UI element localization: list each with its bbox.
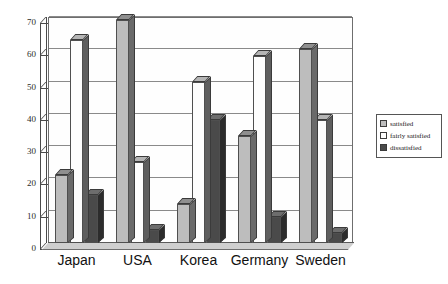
y-tick-label: 50: [6, 83, 36, 92]
y-tick-label: 40: [6, 115, 36, 124]
bar-side: [98, 189, 104, 243]
bar-group-japan: [55, 18, 100, 243]
bar-side: [312, 44, 318, 243]
legend-swatch-icon: [380, 132, 387, 139]
legend-item-fairly-satisfied[interactable]: fairly satisfied: [380, 130, 439, 141]
bar-group-germany: [238, 18, 283, 243]
legend-label: dissatisfied: [390, 144, 422, 152]
bar-face: [177, 204, 190, 243]
bar-korea-satisfied: [177, 204, 190, 243]
gridline: [49, 16, 352, 17]
bar-side: [68, 170, 74, 243]
y-tick-label: 60: [6, 50, 36, 59]
bar-face: [299, 49, 312, 243]
bar-side: [129, 15, 135, 243]
bar-side: [266, 50, 272, 243]
bar-side: [251, 131, 257, 243]
bar-group-sweden: [299, 18, 344, 243]
y-tick-label: 70: [6, 18, 36, 27]
bar-side: [220, 115, 226, 243]
legend-label: fairly satisfied: [390, 132, 430, 140]
bar-side: [83, 34, 89, 243]
bar-group-korea: [177, 18, 222, 243]
bar-side: [205, 76, 211, 243]
bar-group-usa: [116, 18, 161, 243]
legend-label: satisfied: [390, 120, 413, 128]
bar-side: [190, 199, 196, 243]
bar-side: [281, 212, 287, 243]
y-tick-label: 0: [6, 244, 36, 253]
legend-swatch-icon: [380, 120, 387, 127]
plot-area: [48, 17, 353, 243]
y-tick-label: 10: [6, 212, 36, 221]
y-tick-label: 30: [6, 147, 36, 156]
bar-japan-satisfied: [55, 175, 68, 243]
legend-item-dissatisfied[interactable]: dissatisfied: [380, 142, 439, 153]
bar-chart-figure: 010203040506070 JapanUSAKoreaGermanySwed…: [0, 0, 448, 284]
chart-legend: satisfiedfairly satisfieddissatisfied: [376, 114, 442, 158]
bar-side: [327, 115, 333, 243]
bar-germany-satisfied: [238, 136, 251, 243]
bar-face: [238, 136, 251, 243]
bar-side: [144, 157, 150, 243]
x-tick-label-sweden: Sweden: [284, 252, 357, 268]
bar-face: [55, 175, 68, 243]
y-axis-line: [46, 17, 47, 243]
bar-usa-satisfied: [116, 20, 129, 243]
bar-face: [116, 20, 129, 243]
legend-swatch-icon: [380, 144, 387, 151]
y-tick-label: 20: [6, 179, 36, 188]
bar-sweden-satisfied: [299, 49, 312, 243]
legend-item-satisfied[interactable]: satisfied: [380, 118, 439, 129]
plot-floor: [42, 243, 354, 250]
